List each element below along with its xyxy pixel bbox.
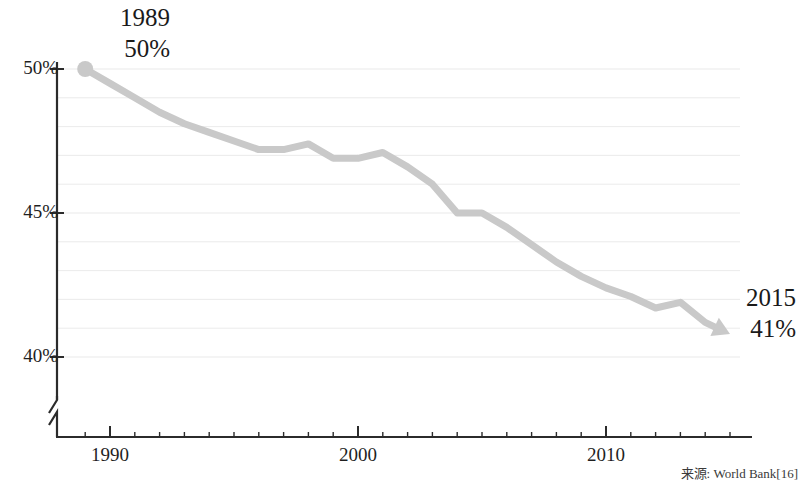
data-line [85, 69, 714, 327]
y-axis-label: 40% [0, 345, 58, 367]
y-axis-label: 50% [0, 57, 58, 79]
x-axis-ticks [85, 426, 730, 437]
chart-container: 1989 50% 2015 41% 50%45%40% 199020002010… [0, 0, 804, 489]
start-annotation-year: 1989 [40, 2, 170, 33]
line-chart-plot [0, 0, 804, 489]
end-annotation-year: 2015 [700, 282, 796, 313]
start-annotation: 1989 50% [40, 2, 170, 65]
x-axis-label: 2000 [318, 444, 398, 466]
source-note: 来源: World Bank[16] [681, 463, 798, 482]
start-annotation-value: 50% [40, 33, 170, 64]
y-axis-label: 45% [0, 201, 58, 223]
axis-break-icon-lower [49, 412, 57, 437]
data-series-group [77, 61, 730, 336]
axis-break-icon [49, 396, 57, 413]
end-annotation: 2015 41% [700, 282, 796, 345]
end-annotation-value: 41% [700, 313, 796, 344]
axes-group [49, 62, 752, 437]
x-axis-label: 2010 [566, 444, 646, 466]
x-axis-label: 1990 [70, 444, 150, 466]
